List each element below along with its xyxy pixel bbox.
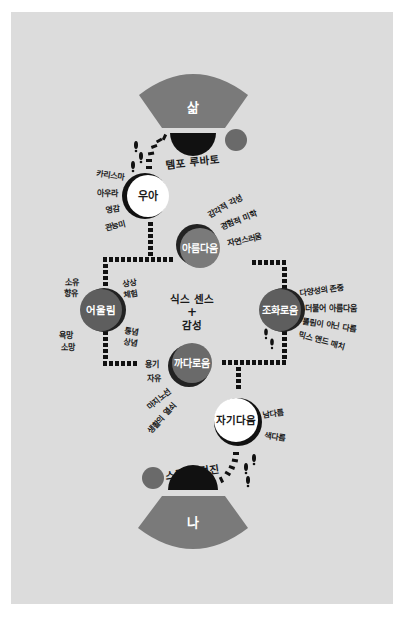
elegance-node-label: 우아 <box>138 189 159 203</box>
pickiness-kw-1: 용기 <box>145 359 159 369</box>
elegance-keyword-2: 아우라 <box>97 188 119 198</box>
dash-bottom-right-horizontal <box>222 360 286 365</box>
center-plus: + <box>187 305 197 319</box>
bottom-small-circle <box>142 467 164 489</box>
top-arc-label: 템포 루바토 <box>165 153 220 171</box>
harmony-left-node-label: 어울림 <box>86 304 116 316</box>
harmony-left-kw-4: 소망 <box>61 342 76 352</box>
style-diagram: 삶 템포 루바토 우아 카리스마 아우라 영감 관능미 <box>0 0 404 622</box>
top-half-circle <box>170 133 216 156</box>
elegance-keyword-3: 영감 <box>105 203 121 215</box>
beauty-keyword-3: 자연스러움 <box>226 231 263 248</box>
top-fan-label: 삶 <box>187 100 199 115</box>
beauty-node-label: 아름다움 <box>182 242 218 254</box>
selfhood-kw-1: 남다름 <box>262 407 285 420</box>
selfhood-node-label: 자기다움 <box>216 414 256 426</box>
selfhood-kw-2: 색다름 <box>264 430 287 443</box>
bottom-fan-label: 나 <box>187 515 199 530</box>
harmony-right-kw-1: 상상 <box>122 277 139 289</box>
dash-top-left-horizontal <box>103 257 173 262</box>
bottom-footprints-icon <box>244 454 256 487</box>
dash-bottom-left-horizontal <box>103 361 137 366</box>
harmony-left-kw-2: 향유 <box>64 288 79 298</box>
harmony-right-node-label: 조화로움 <box>262 305 298 316</box>
harmony-right-kw-d: 믹스 앤드 매치 <box>297 329 346 351</box>
center-line-2: 감성 <box>182 319 202 331</box>
top-footprints-icon <box>131 141 143 172</box>
center-line-1: 식스 센스 <box>170 293 214 305</box>
harmony-left-kw-3: 욕망 <box>59 330 74 340</box>
bottom-dash-path <box>219 452 239 483</box>
harmony-right-kw-4: 상념 <box>123 336 139 348</box>
dash-to-selfhood <box>236 367 241 389</box>
harmony-right-kw-a: 다양성의 존중 <box>299 282 346 298</box>
harmony-right-kw-c: 틀림이 아닌 다름 <box>302 316 358 334</box>
pickiness-node-label: 까다로움 <box>174 357 210 369</box>
elegance-keyword-4: 관능미 <box>104 218 127 233</box>
elegance-keyword-1: 카리스마 <box>96 168 126 182</box>
top-dash-path <box>146 134 167 169</box>
right-footprints-icon <box>264 329 274 350</box>
harmony-left-kw-1: 소유 <box>65 278 80 287</box>
pickiness-kw-2: 자유 <box>147 373 162 383</box>
top-small-circle <box>225 129 247 151</box>
dash-elegance-down <box>148 222 153 256</box>
harmony-right-kw-b: 더불어 아름다움 <box>305 303 358 313</box>
harmony-right-kw-2: 체험 <box>123 288 139 300</box>
harmony-right-kw-3: 통념 <box>124 325 140 337</box>
dash-top-right-horizontal <box>252 260 286 265</box>
